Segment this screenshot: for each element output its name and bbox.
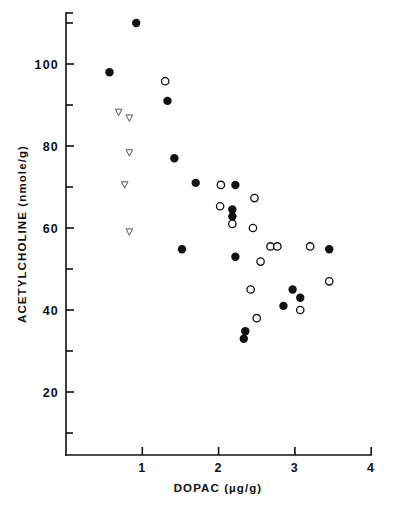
- data-point-open-circle: [274, 243, 281, 250]
- data-point-open-circle: [326, 278, 333, 285]
- data-point-filled-circle: [228, 212, 236, 220]
- data-point-filled-circle: [192, 179, 200, 187]
- data-point-filled-circle: [231, 181, 239, 189]
- data-marker-group: [105, 19, 333, 343]
- data-point-filled-circle: [325, 245, 333, 253]
- data-point-filled-circle: [170, 154, 178, 162]
- data-point-filled-circle: [279, 302, 287, 310]
- data-point-open-circle: [229, 220, 236, 227]
- data-point-filled-circle: [231, 253, 239, 261]
- data-point-open-circle: [216, 203, 223, 210]
- x-tick-label: 1: [138, 461, 146, 475]
- plot-canvas: 20406080100 1234 DOPAC (µg/g) ACETYLCHOL…: [0, 0, 396, 511]
- data-point-open-triangle: [115, 109, 122, 115]
- x-axis-title: DOPAC (µg/g): [174, 482, 263, 494]
- data-point-open-triangle: [126, 115, 133, 121]
- y-tick-label-group: 20406080100: [35, 58, 59, 400]
- data-point-open-circle: [247, 286, 254, 293]
- data-point-filled-circle: [163, 97, 171, 105]
- y-tick-label: 40: [43, 304, 59, 318]
- data-point-open-circle: [253, 315, 260, 322]
- y-tick-label: 100: [35, 58, 59, 72]
- data-point-filled-circle: [105, 68, 113, 76]
- x-tick-label: 3: [291, 461, 299, 475]
- data-point-filled-circle: [296, 294, 304, 302]
- data-point-filled-circle: [288, 285, 296, 293]
- data-point-open-circle: [249, 224, 256, 231]
- data-point-filled-circle: [178, 245, 186, 253]
- x-tick-group: [142, 447, 371, 455]
- axes-group: [66, 13, 371, 455]
- y-tick-label: 60: [43, 222, 59, 236]
- y-tick-label: 20: [43, 386, 59, 400]
- data-point-open-triangle: [126, 229, 133, 235]
- data-point-filled-circle: [241, 327, 249, 335]
- data-point-open-circle: [161, 78, 168, 85]
- x-tick-label: 2: [215, 461, 223, 475]
- data-point-filled-circle: [132, 19, 140, 27]
- y-axis-title: ACETYLCHOLINE (nmole/g): [16, 145, 28, 323]
- data-point-open-triangle: [126, 150, 133, 156]
- data-point-open-triangle: [121, 182, 128, 188]
- data-point-open-circle: [257, 258, 264, 265]
- data-point-open-circle: [217, 181, 224, 188]
- y-tick-group: [66, 23, 74, 433]
- y-tick-label: 80: [43, 140, 59, 154]
- x-tick-label: 4: [367, 461, 375, 475]
- data-point-open-circle: [297, 306, 304, 313]
- data-point-filled-circle: [240, 335, 248, 343]
- scatter-plot-figure: 20406080100 1234 DOPAC (µg/g) ACETYLCHOL…: [0, 0, 396, 511]
- x-tick-label-group: 1234: [138, 461, 375, 475]
- data-point-open-circle: [251, 194, 258, 201]
- data-point-open-circle: [306, 243, 313, 250]
